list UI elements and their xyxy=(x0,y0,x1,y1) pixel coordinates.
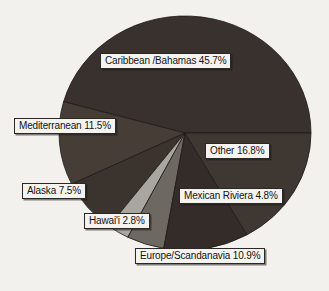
pie-chart: Caribbean /Bahamas 45.7% Mediterranean 1… xyxy=(0,0,329,291)
slice-label-mexican-riviera: Mexican Riviera 4.8% xyxy=(179,188,283,204)
slice-label-other: Other 16.8% xyxy=(205,143,270,159)
slice-label-mediterranean: Mediterranean 11.5% xyxy=(14,118,116,134)
slice-label-alaska: Alaska 7.5% xyxy=(22,183,86,199)
slice-label-europe-scandanavia: Europe/Scandanavia 10.9% xyxy=(135,248,265,264)
slice-label-caribbean-bahamas: Caribbean /Bahamas 45.7% xyxy=(100,53,231,69)
slice-label-hawaii: Hawai'i 2.8% xyxy=(84,213,150,229)
